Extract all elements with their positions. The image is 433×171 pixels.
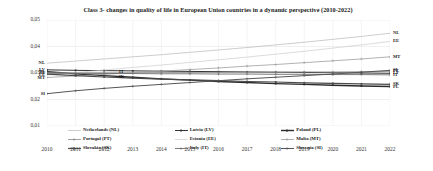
series-marker (389, 83, 390, 85)
series-marker (246, 78, 249, 81)
legend-label: Poland (PL) (296, 128, 321, 133)
legend-item-si[interactable]: Slovenia (SI) (273, 144, 380, 153)
legend-item-ee[interactable]: Estonia (EE) (167, 135, 274, 144)
series-marker (75, 75, 77, 77)
y-axis-tick-label: 0,04 (16, 44, 40, 49)
legend-swatch-mt (281, 137, 294, 142)
series-marker (160, 70, 163, 73)
legend-label: Portugal (PT) (83, 137, 111, 142)
series-marker (274, 76, 277, 79)
legend-item-it[interactable]: Italy (IT) (167, 144, 274, 153)
series-marker (246, 65, 249, 68)
series-marker (332, 60, 335, 63)
series-marker (360, 58, 363, 61)
legend-label: Slovakia (SK) (83, 146, 111, 151)
series-marker (217, 67, 220, 70)
y-axis-tick-label: 0,05 (16, 17, 40, 22)
endpoint-label-si: SI (41, 91, 45, 96)
chart-container: Class 3- changes in quality of life in E… (0, 0, 433, 171)
legend-label: Italy (IT) (190, 146, 209, 151)
legend-item-mt[interactable]: Malta (MT) (273, 135, 380, 144)
series-marker (246, 81, 248, 83)
series-marker (160, 78, 162, 80)
y-axis-tick-label: 0,01 (16, 123, 40, 128)
series-marker (75, 69, 77, 71)
series-marker (303, 82, 305, 84)
series-marker (360, 73, 363, 76)
y-axis: 0,050,040,030,020,01 (8, 0, 40, 171)
legend-label: Netherlands (NL) (83, 128, 119, 133)
endpoint-label-ee: EE (393, 39, 399, 44)
series-marker (47, 92, 48, 95)
series-marker (275, 83, 277, 85)
legend-item-nl[interactable]: Netherlands (NL) (60, 126, 167, 135)
x-axis-tick-label: 2022 (385, 147, 396, 152)
legend-swatch-it (175, 146, 188, 151)
chart-title: Class 3- changes in quality of life in E… (48, 7, 388, 13)
series-marker (47, 69, 48, 71)
series-marker (103, 76, 105, 78)
endpoint-label-nl: NL (393, 31, 399, 36)
legend-swatch-pl (281, 128, 294, 133)
series-marker (189, 81, 192, 84)
series-marker (103, 87, 106, 90)
series-marker (303, 61, 306, 64)
endpoint-label-mt: MT (38, 75, 45, 80)
legend-item-pl[interactable]: Poland (PL) (273, 126, 380, 135)
series-marker (160, 83, 163, 86)
y-axis-tick-label: 0,02 (16, 97, 40, 102)
legend-swatch-ee (175, 137, 188, 142)
series-marker (361, 83, 363, 85)
series-marker (361, 85, 363, 87)
legend-label: Malta (MT) (296, 137, 320, 142)
legend-swatch-pt (68, 137, 81, 142)
plot-svg (47, 20, 390, 126)
series-marker (189, 68, 192, 71)
series-marker (74, 89, 77, 92)
series-marker (189, 79, 191, 81)
y-axis-tick-label: 0,03 (16, 70, 40, 75)
legend-swatch-si (281, 146, 294, 151)
series-marker (131, 85, 134, 88)
series-marker (132, 77, 134, 79)
series-marker (303, 83, 305, 85)
endpoint-label-it: IT (393, 73, 398, 78)
series-marker (332, 84, 334, 86)
legend-swatch-lv (175, 128, 188, 133)
series-marker (274, 63, 277, 66)
legend-swatch-nl (68, 128, 81, 133)
endpoint-label-mt: MT (393, 55, 400, 60)
endpoint-label-pl: PL (393, 84, 399, 89)
series-marker (275, 81, 277, 83)
series-marker (274, 73, 277, 76)
chart-legend: Netherlands (NL)Latvia (LV)Poland (PL)Po… (60, 126, 380, 144)
series-marker (389, 86, 390, 88)
inline-label-sk: SK (118, 75, 124, 79)
legend-swatch-sk (68, 146, 81, 151)
legend-item-sk[interactable]: Slovakia (SK) (60, 144, 167, 153)
x-axis-tick-label: 2010 (42, 147, 53, 152)
legend-label: Slovenia (SI) (296, 146, 322, 151)
series-marker (332, 82, 334, 84)
legend-item-pt[interactable]: Portugal (PT) (60, 135, 167, 144)
series-marker (389, 56, 390, 59)
legend-item-lv[interactable]: Latvia (LV) (167, 126, 274, 135)
endpoint-label-nl: NL (39, 61, 45, 66)
legend-label: Latvia (LV) (190, 128, 214, 133)
legend-label: Estonia (EE) (190, 137, 216, 142)
plot-area (47, 20, 390, 126)
series-marker (47, 76, 48, 79)
